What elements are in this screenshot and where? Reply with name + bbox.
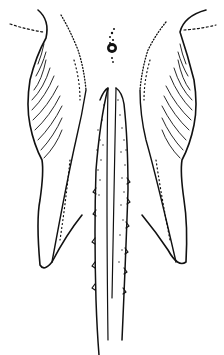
right-wing-hatching (162, 44, 192, 158)
right-dashed-outline (184, 25, 216, 30)
line-drawing (0, 0, 224, 355)
central-spot (107, 28, 117, 63)
left-wing-inner-dotted (61, 15, 86, 90)
illustration (0, 0, 224, 355)
left-wing-stipple (60, 60, 80, 240)
left-dashed-outline (10, 24, 44, 32)
shaft-left-edge (95, 88, 108, 355)
shaft-right-edge (116, 88, 128, 340)
left-wing-outline (28, 10, 82, 268)
right-wing-inner-dotted (140, 22, 166, 90)
right-wing-outline (142, 10, 206, 264)
shaft-inner-line-2 (112, 88, 116, 298)
shaft-inner-line-1 (107, 88, 108, 340)
